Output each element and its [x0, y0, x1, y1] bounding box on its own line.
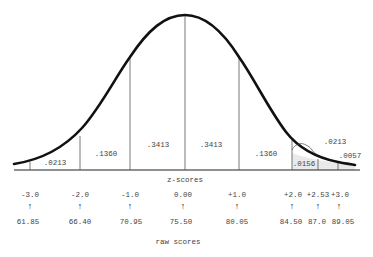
raw-score-label: 84.50: [280, 218, 303, 226]
up-arrow-icon: ↑: [336, 203, 341, 212]
area-label-plus253-plus3: .0057: [339, 152, 362, 160]
z-label: +3.0: [331, 191, 349, 199]
z-scores-axis-title: z-scores: [167, 176, 203, 184]
up-arrow-icon: ↑: [315, 203, 320, 212]
raw-score-label: 61.85: [17, 218, 40, 226]
z-label: -3.0: [21, 191, 39, 199]
raw-score-label: 89.05: [332, 218, 355, 226]
z-label: 0.00: [174, 191, 192, 199]
up-arrow-icon: ↑: [127, 203, 132, 212]
area-label-bracket-0213: .0213: [324, 138, 347, 146]
z-label: -2.0: [71, 191, 89, 199]
normal-curve: [14, 15, 355, 165]
z-label: -1.0: [121, 191, 139, 199]
up-arrow-icon: ↑: [180, 203, 185, 212]
area-label-0-plus1: .3413: [200, 141, 223, 149]
raw-score-label: 87.0: [308, 218, 326, 226]
up-arrow-icon: ↑: [234, 203, 239, 212]
up-arrow-icon: ↑: [289, 203, 294, 212]
area-label-minus2-minus1: .1360: [95, 150, 118, 158]
z-label: +2.53: [307, 191, 330, 199]
area-label-plus1-plus2: .1360: [255, 150, 278, 158]
z-label: +1.0: [228, 191, 246, 199]
area-label-plus2-plus253: .0156: [293, 160, 316, 168]
raw-score-label: 80.05: [226, 218, 249, 226]
raw-scores-axis-title: raw scores: [155, 238, 200, 246]
z-label: +2.0: [284, 191, 302, 199]
area-label-minus1-0: .3413: [147, 141, 170, 149]
up-arrow-icon: ↑: [77, 203, 82, 212]
area-label-minus3-minus2: .0213: [44, 159, 67, 167]
raw-score-label: 66.40: [69, 218, 92, 226]
raw-score-label: 75.50: [170, 218, 193, 226]
raw-score-label: 70.95: [120, 218, 143, 226]
up-arrow-icon: ↑: [27, 203, 32, 212]
